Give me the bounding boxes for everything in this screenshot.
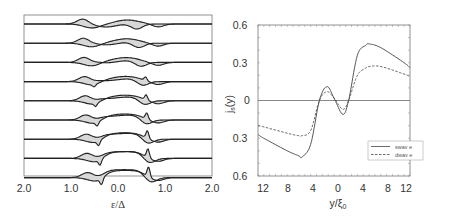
ldos-curve bbox=[24, 149, 212, 165]
x-tick: 0.0 bbox=[111, 182, 126, 194]
x-tick: 0 bbox=[335, 182, 341, 194]
ldos-curve bbox=[24, 131, 212, 146]
x-tick: 4 bbox=[360, 182, 366, 194]
x-tick: 8 bbox=[285, 182, 291, 194]
ldos-curve bbox=[24, 133, 212, 143]
right-x-axis-label: y/ξ0 bbox=[330, 197, 347, 210]
x-tick: 2.0 bbox=[17, 182, 32, 194]
y-tick: 0.3 bbox=[233, 132, 248, 144]
left-x-ticks: 2.0 1.0 0.0 1.0 2.0 bbox=[17, 182, 220, 194]
x-tick: 12 bbox=[257, 182, 269, 194]
ldos-curve bbox=[24, 115, 212, 124]
right-y-ticks: 0.6 0.3 0 0.3 0.6 bbox=[233, 19, 250, 182]
left-panel: 2.0 1.0 0.0 1.0 2.0 ε/Δ bbox=[17, 15, 220, 210]
right-panel: 0.6 0.3 0 0.3 0.6 js(y) 12 8 4 0 4 8 12 … bbox=[223, 19, 423, 210]
y-tick: 0.6 bbox=[233, 170, 248, 182]
ldos-traces bbox=[24, 19, 212, 185]
x-tick: 2.0 bbox=[205, 182, 220, 194]
x-tick: 1.0 bbox=[158, 182, 173, 194]
y-tick: 0.3 bbox=[233, 57, 248, 69]
y-tick: 0 bbox=[244, 94, 250, 106]
x-tick: 8 bbox=[385, 182, 391, 194]
legend-label-swave: swav e bbox=[395, 144, 412, 150]
x-tick: 1.0 bbox=[64, 182, 79, 194]
y-tick: 0.6 bbox=[233, 19, 248, 31]
right-x-ticks: 12 8 4 0 4 8 12 bbox=[257, 182, 412, 194]
dwave-curve bbox=[258, 66, 410, 136]
ldos-curve bbox=[24, 152, 212, 163]
left-x-axis-label: ε/Δ bbox=[111, 199, 125, 210]
x-tick: 4 bbox=[310, 182, 316, 194]
right-y-axis-label: js(y) bbox=[223, 95, 236, 114]
legend-label-dwave: dwav e bbox=[395, 152, 412, 158]
x-tick: 12 bbox=[400, 182, 412, 194]
figure: 2.0 1.0 0.0 1.0 2.0 ε/Δ 0.6 0.3 0 0.3 0.… bbox=[0, 0, 449, 222]
legend: swav e dwav e bbox=[368, 141, 423, 160]
